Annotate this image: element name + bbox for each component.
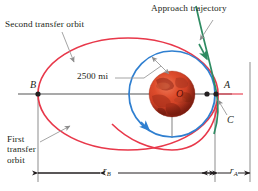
label-first-transfer-orbit-line2: transfer xyxy=(7,144,36,154)
leader-point-c xyxy=(218,100,227,115)
label-point-c: C xyxy=(227,114,234,125)
label-approach-trajectory: Approach trajectory xyxy=(151,3,227,13)
orbital-transfer-figure: Second transfer orbit Approach trajector… xyxy=(0,0,258,191)
marker-point-transfer xyxy=(204,91,209,96)
leader-altitude-arrow-up xyxy=(152,57,161,66)
label-r-a: rA xyxy=(230,165,238,177)
label-first-transfer-orbit: First transfer orbit xyxy=(7,134,36,165)
label-r-a-subscript: A xyxy=(234,170,238,177)
label-point-b: B xyxy=(30,79,36,90)
label-r-b: rB xyxy=(103,165,111,177)
planet-mars xyxy=(149,71,195,117)
leader-second-transfer-orbit xyxy=(62,32,74,62)
label-first-transfer-orbit-line3: orbit xyxy=(7,155,36,165)
dimension-extension-lines xyxy=(38,62,250,182)
label-r-b-subscript: B xyxy=(107,170,111,177)
label-point-a: A xyxy=(224,79,230,90)
marker-point-b xyxy=(35,91,40,96)
label-center-o: O xyxy=(176,88,183,99)
marker-point-a xyxy=(213,91,218,96)
label-first-transfer-orbit-line1: First xyxy=(7,134,36,144)
label-second-transfer-orbit: Second transfer orbit xyxy=(5,19,84,29)
label-altitude-2500mi: 2500 mi xyxy=(77,71,108,81)
